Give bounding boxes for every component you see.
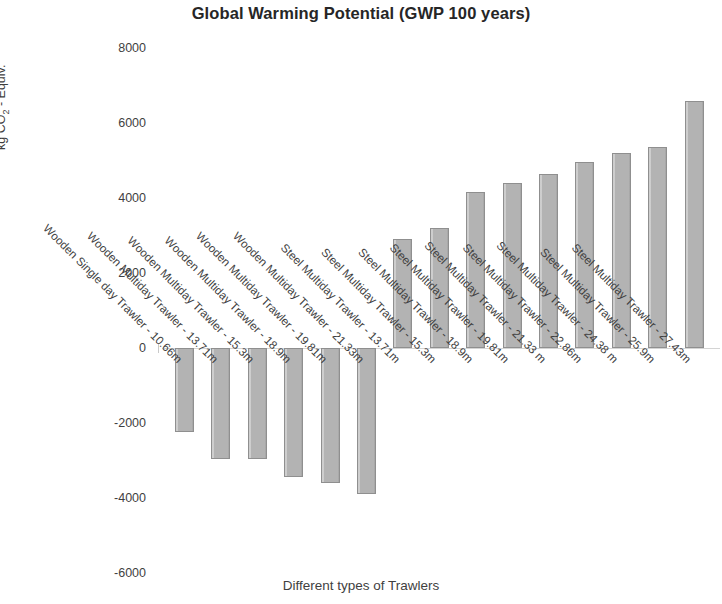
x-axis-title: Different types of Trawlers [0,578,722,593]
x-axis-category-labels: Wooden Single day Trawler - 10.66mWooden… [0,0,722,604]
chart-container: Global Warming Potential (GWP 100 years)… [0,0,722,604]
x-tick-label-text: Wooden Multiday Trawler - 13.71m [85,229,221,365]
x-tick-label-text: Wooden Multiday Trawler - 21.33m [230,229,366,365]
x-tick-label-text: Wooden Multiday Trawler - 19.81m [194,229,330,365]
